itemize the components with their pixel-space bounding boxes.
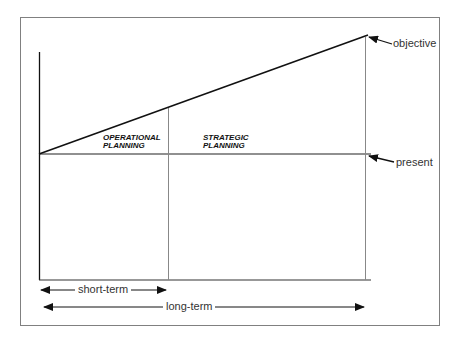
short-term-label: short-term: [75, 284, 131, 295]
strategic-label-line2: PLANNING: [203, 142, 249, 150]
outer-frame: [21, 18, 440, 326]
operational-planning-label: OPERATIONAL PLANNING: [103, 134, 161, 150]
planning-diagram: [0, 0, 462, 345]
present-label: present: [396, 157, 433, 168]
long-term-label: long-term: [163, 301, 215, 312]
present-pointer-arrow: [369, 156, 394, 162]
operational-label-line2: PLANNING: [103, 142, 161, 150]
objective-label: objective: [393, 38, 436, 49]
objective-pointer-arrow: [369, 37, 392, 44]
strategic-planning-label: STRATEGIC PLANNING: [203, 134, 249, 150]
